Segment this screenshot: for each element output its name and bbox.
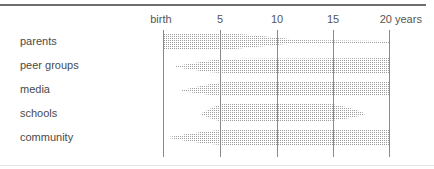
band-community — [168, 129, 389, 145]
row-label-peer-groups: peer groups — [20, 59, 79, 71]
band-parents — [163, 33, 389, 50]
gridline-15 — [333, 30, 334, 157]
band-schools — [200, 104, 366, 122]
row-label-community: community — [20, 131, 73, 143]
gridline-10 — [277, 30, 278, 157]
row-label-media: media — [20, 83, 50, 95]
band-peer-groups — [175, 58, 389, 73]
gridline-20 — [389, 30, 390, 157]
gridline-birth — [163, 30, 164, 157]
bottom-rule — [0, 165, 434, 166]
row-label-parents: parents — [20, 35, 57, 47]
row-label-schools: schools — [20, 107, 57, 119]
gridline-5 — [220, 30, 221, 157]
influence-bands — [0, 0, 434, 169]
band-media — [182, 81, 389, 96]
